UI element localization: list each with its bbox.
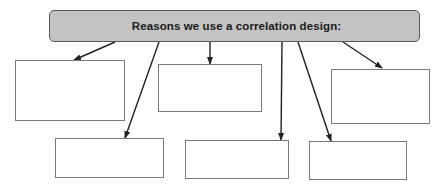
answer-box-6[interactable] <box>309 141 407 180</box>
header-box: Reasons we use a correlation design: <box>49 10 420 42</box>
diagram-title: Reasons we use a correlation design: <box>132 20 341 32</box>
arrow-6 <box>343 42 382 68</box>
arrow-5 <box>298 42 331 141</box>
answer-box-4[interactable] <box>55 138 164 178</box>
arrow-1 <box>74 42 115 60</box>
arrow-2 <box>125 42 159 138</box>
answer-box-3[interactable] <box>331 69 430 124</box>
arrow-4 <box>281 42 282 140</box>
answer-box-2[interactable] <box>158 64 262 112</box>
answer-box-5[interactable] <box>185 140 289 179</box>
concept-map-diagram: Reasons we use a correlation design: <box>0 0 444 187</box>
answer-box-1[interactable] <box>15 60 125 121</box>
